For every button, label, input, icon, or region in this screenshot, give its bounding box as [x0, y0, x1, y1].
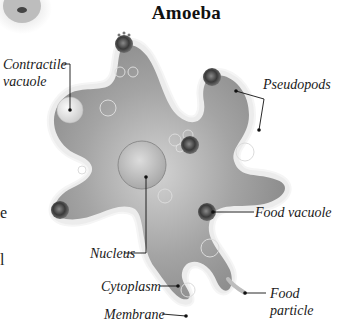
label-contractile-vacuole-line1: Contractile — [3, 56, 67, 73]
label-nucleus: Nucleus — [90, 245, 135, 262]
amoeba-illustration — [0, 0, 339, 332]
label-pseudopods: Pseudopods — [263, 76, 331, 93]
food-vacuole — [51, 201, 69, 219]
edge-text-fragment: l — [0, 251, 4, 269]
food-vacuole — [203, 68, 221, 86]
diagram-title: Amoeba — [0, 2, 339, 24]
label-food-particle-line2: particle — [270, 302, 314, 319]
label-cytoplasm: Cytoplasm — [101, 278, 161, 295]
label-food-particle-line1: Food — [270, 285, 314, 302]
nucleus — [118, 141, 166, 189]
label-contractile-vacuole: Contractile vacuole — [3, 56, 67, 90]
edge-text-fragment: e — [0, 204, 7, 222]
label-contractile-vacuole-line2: vacuole — [3, 73, 67, 90]
food-vacuole — [181, 136, 199, 154]
food-vacuole-top — [115, 32, 133, 54]
label-membrane: Membrane — [104, 306, 165, 323]
label-food-vacuole: Food vacuole — [255, 204, 332, 221]
label-food-particle: Food particle — [270, 285, 314, 319]
